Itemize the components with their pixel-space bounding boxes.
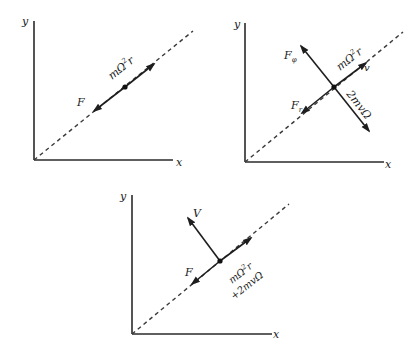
centrifugal-coriolis-arrow [220, 238, 251, 261]
y-axis-label: y [119, 190, 127, 203]
particle [331, 84, 336, 89]
f-r-label: Fr [290, 99, 303, 114]
velocity-label: v [364, 62, 370, 73]
y-axis-label: y [233, 18, 241, 31]
particle [122, 84, 127, 89]
applied-force-arrow [192, 261, 220, 284]
force-label: F [184, 266, 193, 279]
rotating-frame-force-diagrams: y x mΩ2r F y x Fφ mΩ2r v Fr 2mvΩ [0, 0, 417, 353]
radial-line [245, 32, 403, 162]
f-phi-arrow [301, 46, 334, 87]
force-label: F [76, 96, 85, 109]
velocity-arrow [188, 218, 220, 261]
y-axis-label: y [21, 15, 29, 28]
velocity-label: V [193, 207, 202, 220]
centrifugal-force-arrow [125, 64, 154, 87]
centrifugal-label: mΩ2r [333, 44, 365, 74]
panel-2: y x Fφ mΩ2r v Fr 2mvΩ [233, 18, 403, 171]
f-r-arrow [302, 87, 334, 113]
x-axis-label: x [273, 328, 280, 341]
centrifugal-label: mΩ2r [105, 53, 137, 83]
applied-force-arrow [94, 87, 125, 111]
panel-1: y x mΩ2r F [21, 15, 193, 169]
x-axis-label: x [176, 156, 183, 169]
f-phi-label: Fφ [283, 49, 297, 64]
panel-3: y x V F mΩ2r +2mvΩ [119, 190, 289, 341]
particle [217, 258, 222, 263]
x-axis-label: x [385, 158, 392, 171]
